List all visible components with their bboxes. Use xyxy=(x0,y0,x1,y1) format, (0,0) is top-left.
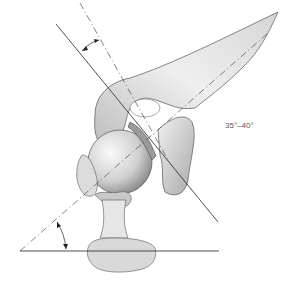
spinoglenoid-notch xyxy=(130,99,160,117)
arrowhead-icon xyxy=(57,222,61,228)
arrowhead-icon xyxy=(63,244,68,249)
angle-label: 35°–40° xyxy=(225,121,254,130)
arrowhead-icon xyxy=(94,39,99,43)
arrowhead-icon xyxy=(82,46,88,51)
distal-humerus xyxy=(87,238,156,272)
scapula-diagram xyxy=(0,0,283,283)
humeral-shaft xyxy=(100,200,128,238)
